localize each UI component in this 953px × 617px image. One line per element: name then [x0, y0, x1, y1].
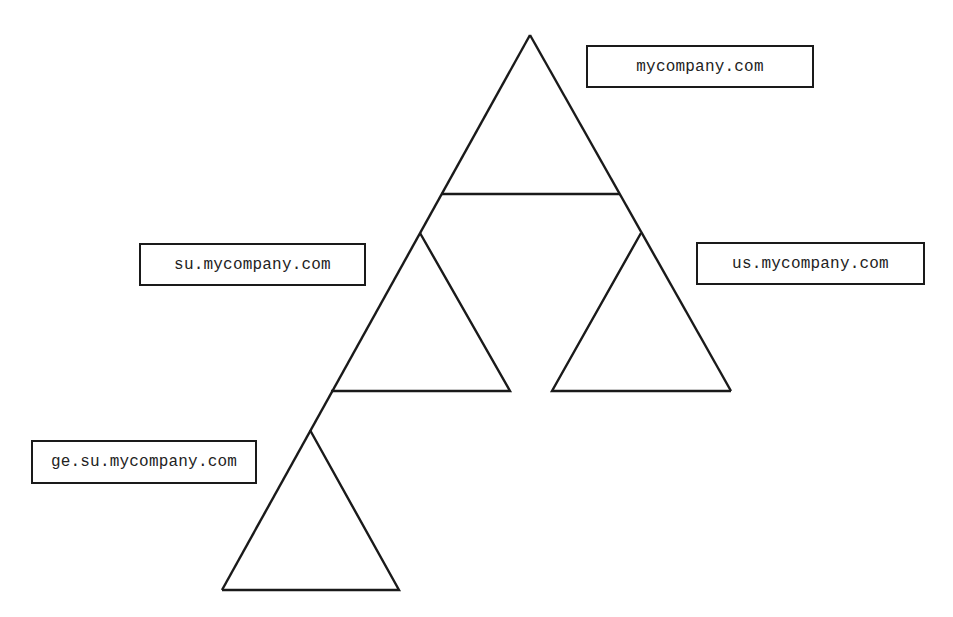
- root-domain-left-edge: [222, 35, 530, 590]
- su-domain-text: su.mycompany.com: [174, 256, 331, 274]
- ge-domain-text: ge.su.mycompany.com: [51, 453, 237, 471]
- su-domain-label: su.mycompany.com: [139, 243, 366, 286]
- root-domain-text: mycompany.com: [636, 58, 763, 76]
- us-domain-text: us.mycompany.com: [732, 255, 889, 273]
- us-domain-label: us.mycompany.com: [696, 242, 925, 285]
- ge-domain-label: ge.su.mycompany.com: [31, 440, 257, 484]
- domain-tree-diagram: [0, 0, 953, 617]
- root-domain-label: mycompany.com: [586, 45, 814, 88]
- root-domain-right-edge: [530, 35, 731, 391]
